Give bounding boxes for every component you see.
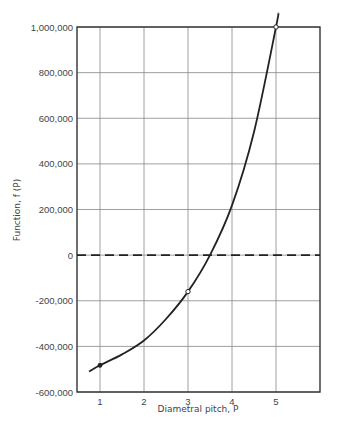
- y-tick-label: -200,000: [35, 295, 73, 306]
- data-point-marker: [98, 363, 102, 367]
- data-point-marker: [186, 289, 190, 293]
- y-tick-label: 800,000: [39, 67, 73, 78]
- y-axis-tick-labels: -600,000-400,000-200,0000200,000400,0006…: [31, 22, 73, 398]
- y-tick-label: 400,000: [39, 158, 73, 169]
- function-curve: [89, 13, 278, 371]
- grid-lines: [77, 27, 320, 392]
- x-tick-label: 1: [97, 396, 102, 407]
- y-tick-label: -400,000: [35, 341, 73, 352]
- y-tick-label: 1,000,000: [31, 22, 73, 33]
- y-tick-label: 600,000: [39, 113, 73, 124]
- y-tick-label: 0: [68, 250, 73, 261]
- x-axis-label: Diametral pitch, P: [158, 404, 239, 414]
- y-axis-label: Function, f (P): [12, 179, 22, 241]
- data-point-marker: [274, 25, 278, 29]
- y-tick-label: -600,000: [35, 387, 73, 398]
- y-tick-label: 200,000: [39, 204, 73, 215]
- chart: -600,000-400,000-200,0000200,000400,0006…: [0, 0, 337, 437]
- x-tick-label: 2: [141, 396, 146, 407]
- x-tick-label: 5: [273, 396, 278, 407]
